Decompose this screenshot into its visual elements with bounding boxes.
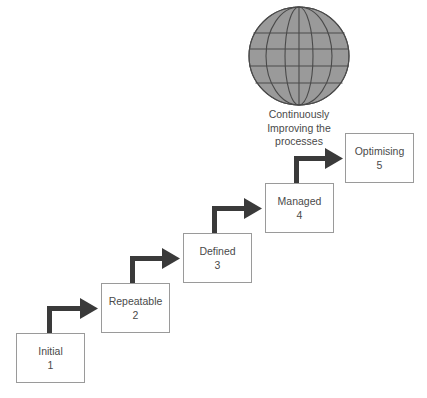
globe-caption-line-1: Continuously xyxy=(243,108,355,122)
stage-box-optimising[interactable]: Optimising 5 xyxy=(345,133,414,183)
stage-box-initial[interactable]: Initial 1 xyxy=(16,333,85,383)
globe-caption-line-2: Improving the xyxy=(243,122,355,136)
arrow-defined-to-managed xyxy=(212,198,262,233)
stage-label-optimising: Optimising xyxy=(355,144,405,158)
stage-label-managed: Managed xyxy=(278,194,322,208)
stage-box-managed[interactable]: Managed 4 xyxy=(265,183,334,233)
stage-box-repeatable[interactable]: Repeatable 2 xyxy=(101,283,170,333)
arrow-initial-to-repeatable xyxy=(47,298,98,333)
globe-caption: Continuously Improving the processes xyxy=(243,108,355,149)
globe-caption-line-3: processes xyxy=(243,135,355,149)
stage-number-managed: 4 xyxy=(297,208,303,222)
globe-icon xyxy=(247,5,351,107)
stage-number-initial: 1 xyxy=(48,358,54,372)
cmm-maturity-diagram: Continuously Improving the processes xyxy=(0,0,427,398)
stage-number-defined: 3 xyxy=(215,258,221,272)
stage-box-defined[interactable]: Defined 3 xyxy=(183,233,252,283)
stage-number-repeatable: 2 xyxy=(133,308,139,322)
stage-number-optimising: 5 xyxy=(377,158,383,172)
arrow-managed-to-optimising xyxy=(294,148,343,183)
stage-label-repeatable: Repeatable xyxy=(109,294,163,308)
arrow-repeatable-to-defined xyxy=(130,248,180,283)
stage-label-initial: Initial xyxy=(38,344,63,358)
stage-label-defined: Defined xyxy=(199,244,235,258)
